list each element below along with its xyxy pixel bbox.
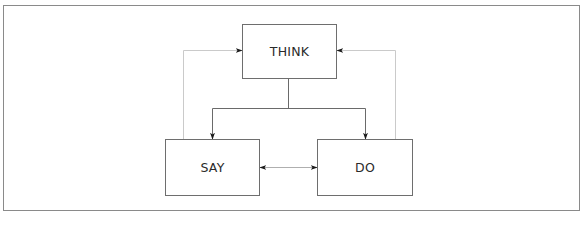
node-think-label: THINK xyxy=(270,44,309,59)
node-say-label: SAY xyxy=(201,160,225,175)
node-do-label: DO xyxy=(355,160,375,175)
edge-think-to-say-do xyxy=(213,79,366,109)
node-think: THINK xyxy=(242,24,337,79)
node-do: DO xyxy=(317,139,413,196)
node-say: SAY xyxy=(165,139,260,196)
edge-do-to-think-feedback xyxy=(337,51,396,140)
